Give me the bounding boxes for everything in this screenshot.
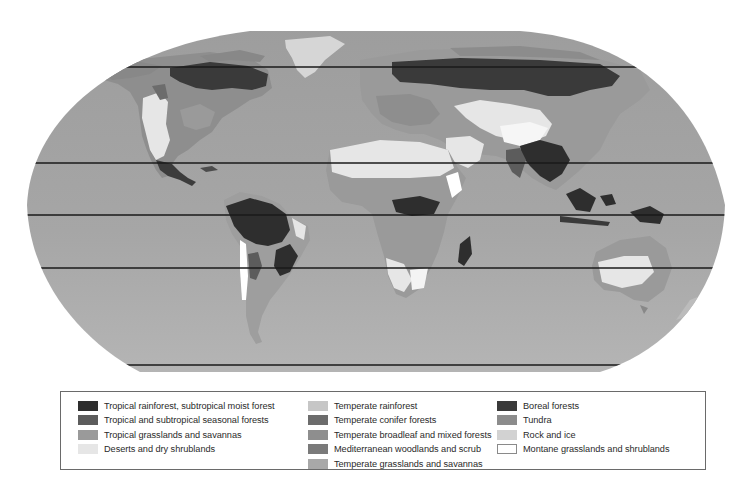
legend-column-1: Tropical rainforest, subtropical moist f… <box>78 399 275 457</box>
legend-label: Deserts and dry shrublands <box>104 444 215 454</box>
legend-label: Temperate grasslands and savannas <box>334 459 483 469</box>
legend-label: Tropical and subtropical seasonal forest… <box>104 415 269 425</box>
legend-item: Temperate grasslands and savannas <box>308 457 492 471</box>
swatch-temperate-broadleaf <box>308 430 328 440</box>
biome-legend: Tropical rainforest, subtropical moist f… <box>60 391 706 470</box>
legend-column-2: Temperate rainforest Temperate conifer f… <box>308 399 492 472</box>
swatch-mediterranean <box>308 444 328 454</box>
legend-label: Boreal forests <box>523 401 579 411</box>
legend-item: Tropical grasslands and savannas <box>78 428 275 442</box>
legend-item: Mediterranean woodlands and scrub <box>308 443 492 457</box>
legend-label: Tropical grasslands and savannas <box>104 430 241 440</box>
globe <box>0 0 755 385</box>
swatch-boreal-forests <box>497 401 517 411</box>
swatch-tropical-rainforest <box>78 401 98 411</box>
legend-label: Tundra <box>523 415 551 425</box>
legend-label: Temperate rainforest <box>334 401 417 411</box>
legend-item: Tundra <box>497 414 669 428</box>
swatch-temperate-conifer <box>308 415 328 425</box>
swatch-montane-grasslands <box>497 444 517 454</box>
legend-label: Mediterranean woodlands and scrub <box>334 444 481 454</box>
legend-item: Deserts and dry shrublands <box>78 443 275 457</box>
legend-label: Tropical rainforest, subtropical moist f… <box>104 401 275 411</box>
swatch-tundra <box>497 415 517 425</box>
swatch-rock-and-ice <box>497 430 517 440</box>
world-biome-map <box>0 0 755 385</box>
legend-item: Temperate rainforest <box>308 399 492 413</box>
legend-label: Temperate broadleaf and mixed forests <box>334 430 492 440</box>
legend-label: Rock and ice <box>523 430 576 440</box>
legend-item: Tropical rainforest, subtropical moist f… <box>78 399 275 413</box>
swatch-tropical-seasonal-forests <box>78 415 98 425</box>
legend-item: Tropical and subtropical seasonal forest… <box>78 414 275 428</box>
map-graphic <box>0 0 755 385</box>
legend-item: Temperate broadleaf and mixed forests <box>308 428 492 442</box>
swatch-temperate-grasslands <box>308 459 328 469</box>
legend-item: Boreal forests <box>497 399 669 413</box>
legend-item: Montane grasslands and shrublands <box>497 443 669 457</box>
swatch-deserts <box>78 444 98 454</box>
legend-item: Rock and ice <box>497 428 669 442</box>
legend-column-3: Boreal forests Tundra Rock and ice Monta… <box>497 399 669 457</box>
legend-item: Temperate conifer forests <box>308 414 492 428</box>
swatch-temperate-rainforest <box>308 401 328 411</box>
legend-label: Montane grasslands and shrublands <box>523 444 669 454</box>
swatch-tropical-grasslands <box>78 430 98 440</box>
legend-label: Temperate conifer forests <box>334 415 436 425</box>
